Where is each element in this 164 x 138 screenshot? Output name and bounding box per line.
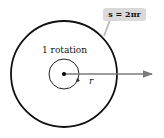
rotation-label: 1 rotation [42,45,87,55]
center-dot [62,72,66,76]
radius-label: r [89,76,93,86]
label-pointer [104,20,110,36]
formula-label: s = 2πr [103,8,146,21]
